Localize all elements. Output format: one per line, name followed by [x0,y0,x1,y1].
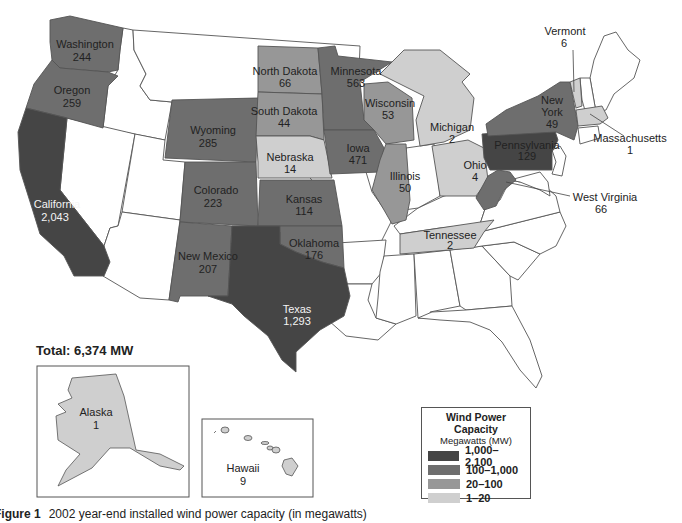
label-south-dakota-value: 44 [278,117,290,129]
label-oregon-name: Oregon [54,84,91,96]
label-wisconsin-value: 53 [382,109,394,121]
label-iowa-value: 471 [349,154,367,166]
label-washington-value: 244 [73,51,91,63]
label-massachusetts-value: 1 [627,144,633,156]
label-massachusetts-name: Massachusetts [593,132,667,144]
label-texas-value: 1,293 [283,315,311,327]
label-west-virginia-value: 66 [595,203,607,215]
label-illinois-value: 50 [399,182,411,194]
label-michigan-name: Michigan [430,121,474,133]
label-hawaii-name: Hawaii [226,462,259,474]
label-ohio-name: Ohio [463,159,486,171]
label-new-mexico-name: New Mexico [178,250,238,262]
legend-swatch [428,479,460,489]
label-new-york-name: NewYork [541,94,563,118]
state-florida [418,306,542,388]
label-vermont-name: Vermont [545,25,586,37]
legend-item-tier3: 100–1,000 [428,463,524,477]
hawaii-inset-frame [202,419,313,497]
label-south-dakota-name: South Dakota [251,105,319,117]
label-north-dakota-value: 66 [279,77,291,89]
label-texas-name: Texas [283,303,312,315]
label-wisconsin-name: Wisconsin [365,97,415,109]
label-kansas-name: Kansas [286,193,323,205]
alaska-inset: Alaska 1 [37,366,189,497]
label-nebraska-name: Nebraska [266,151,314,163]
state-new-mexico [169,222,232,302]
label-michigan-value: 2 [449,133,455,145]
label-ohio-value: 4 [472,171,478,183]
label-nebraska-value: 14 [284,163,296,175]
caption-text: 2002 year-end installed wind power capac… [49,507,367,521]
label-minnesota-value: 563 [347,77,365,89]
legend-label: 100–1,000 [466,464,518,476]
figure-caption: Figure 12002 year-end installed wind pow… [0,507,367,521]
label-alaska-value: 1 [93,419,99,431]
legend-swatch [428,451,459,461]
label-california-name: California [34,198,81,210]
legend-title: Wind Power Capacity [428,411,524,435]
caption-prefix: Figure 1 [0,507,41,521]
label-alaska-name: Alaska [79,406,113,418]
legend: Wind Power Capacity Megawatts (MW) 1,000… [421,407,531,499]
label-wyoming-value: 285 [199,137,217,149]
label-new-mexico-value: 207 [199,263,217,275]
label-illinois-name: Illinois [390,170,421,182]
state-mississippi [376,254,416,324]
legend-label: 1–20 [466,492,490,504]
state-new-york [486,82,578,140]
label-north-dakota-name: North Dakota [253,65,319,77]
legend-swatch [428,493,460,503]
label-tennessee-value: 2 [447,239,453,251]
total-capacity-label: Total: 6,374 MW [36,343,133,358]
label-minnesota-name: Minnesota [331,65,383,77]
label-oklahoma-name: Oklahoma [289,237,340,249]
legend-item-tier4: 1,000–2,100 [428,449,524,463]
label-washington-name: Washington [56,38,114,50]
label-wyoming-name: Wyoming [190,124,236,136]
label-colorado-value: 223 [204,197,222,209]
label-iowa-name: Iowa [346,142,370,154]
label-oklahoma-value: 176 [305,249,323,261]
legend-swatch [428,465,460,475]
label-new-york-value: 49 [546,118,558,130]
label-hawaii-value: 9 [240,475,246,487]
legend-item-tier2: 20–100 [428,477,524,491]
label-california-value: 2,043 [41,211,69,223]
hawaii-inset: Hawaii 9 [202,419,313,497]
state-maine [590,32,640,112]
label-west-virginia-name: West Virginia [573,191,638,203]
legend-item-tier1: 1–20 [428,491,524,505]
label-pennsylvania-value: 129 [518,150,536,162]
label-oregon-value: 259 [63,97,81,109]
legend-label: 20–100 [466,478,503,490]
label-kansas-value: 114 [295,205,313,217]
label-vermont-value: 6 [561,37,567,49]
label-colorado-name: Colorado [194,184,239,196]
